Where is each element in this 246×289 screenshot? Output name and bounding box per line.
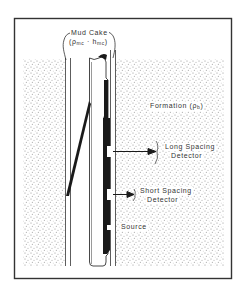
short-spacing-detector-window xyxy=(107,189,111,200)
mud-cake-params-label: (ρmc · hmc) xyxy=(68,38,109,47)
short-spacing-label-line2: Detector xyxy=(146,196,179,204)
formation-left xyxy=(23,59,65,266)
long-spacing-detector-window xyxy=(107,146,111,157)
density-tool-diagram: Mud Cake (ρmc · hmc) Formation (ρb) Long… xyxy=(0,0,246,289)
short-spacing-label-line1: Short Spacing xyxy=(139,187,193,195)
long-spacing-label-line2: Detector xyxy=(170,152,203,160)
formation-text: Formation ( xyxy=(150,102,192,109)
mud-cake-label: Mud Cake xyxy=(70,29,109,37)
source-label: Source xyxy=(120,223,148,231)
close-paren: ) xyxy=(200,102,203,109)
tool-pad-wide xyxy=(103,118,110,254)
long-spacing-label-line1: Long Spacing xyxy=(164,143,216,151)
formation-right xyxy=(116,59,224,266)
h-subscript: mc xyxy=(97,40,105,46)
formation-label: Formation (ρb) xyxy=(149,102,204,111)
source-window xyxy=(107,225,111,230)
mud-cake-text: Mud Cake xyxy=(71,29,108,36)
